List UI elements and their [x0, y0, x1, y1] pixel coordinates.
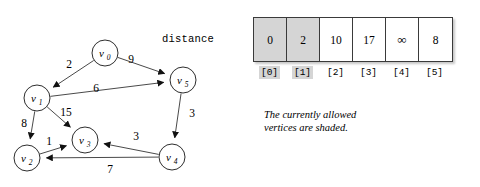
edge-weight-v4-v3: 3 [133, 130, 139, 142]
node-subscript-v5: 5 [185, 80, 189, 89]
graph-node-v5: v5 [170, 67, 196, 93]
edge-v4-to-v3 [104, 144, 159, 155]
graph-node-v2: v2 [14, 145, 40, 171]
edge-weight-v0-v5: 9 [128, 53, 134, 65]
distance-index-label-4: [4] [391, 66, 412, 79]
distance-index-1: [1] [286, 66, 319, 79]
graph-node-v1: v1 [24, 85, 50, 111]
distance-index-5: [5] [418, 66, 451, 79]
edge-v4-to-v2 [46, 157, 158, 158]
distance-cell-1: 2 [287, 18, 320, 61]
distance-index-3: [3] [352, 66, 385, 79]
node-subscript-v2: 2 [29, 158, 33, 167]
edge-v5-to-v4 [175, 93, 181, 137]
node-circle-v4 [159, 144, 185, 170]
edge-v0-to-v5 [118, 57, 165, 73]
graph-node-v3: v3 [72, 127, 98, 153]
node-label-v5: v [177, 74, 182, 86]
edge-weight-v4-v2: 7 [107, 163, 113, 175]
node-subscript-v4: 4 [174, 157, 178, 166]
edge-v1-to-v5 [50, 82, 163, 96]
edge-v1-to-v2 [30, 111, 35, 138]
graph-panel: v0v1v2v3v4v5 2961581373 [0, 0, 232, 187]
node-circle-v3 [72, 127, 98, 153]
distance-index-2: [2] [319, 66, 352, 79]
distance-array-cells: 021017∞8 [253, 17, 453, 62]
distance-cell-4: ∞ [386, 18, 419, 61]
node-subscript-v1: 1 [39, 98, 43, 107]
node-label-v0: v [99, 47, 104, 59]
distance-index-label-5: [5] [424, 66, 445, 79]
distance-index-4: [4] [385, 66, 418, 79]
distance-array-indices: [0][1][2][3][4][5] [253, 66, 451, 79]
graph-node-v4: v4 [159, 144, 185, 170]
edge-v2-to-v3 [40, 146, 66, 154]
edge-weight-v5-v4: 3 [189, 107, 195, 119]
node-label-v4: v [166, 151, 171, 163]
node-circle-v2 [14, 145, 40, 171]
edge-weight-v1-v5: 6 [93, 82, 99, 94]
edge-weight-v0-v1: 2 [66, 58, 72, 70]
distance-cell-0: 0 [254, 18, 287, 61]
node-circle-v1 [24, 85, 50, 111]
caption-line-1: The currently allowed [264, 108, 454, 121]
graph-node-v0: v0 [92, 40, 118, 66]
figure-caption: The currently allowed vertices are shade… [264, 108, 454, 134]
node-label-v1: v [31, 92, 36, 104]
edge-weight-v1-v2: 8 [21, 117, 27, 129]
node-subscript-v3: 3 [86, 140, 91, 149]
nodes-layer: v0v1v2v3v4v5 [14, 40, 196, 171]
edge-weight-v2-v3: 1 [46, 135, 52, 147]
dijkstra-figure: v0v1v2v3v4v5 2961581373 distance 021017∞… [0, 0, 480, 187]
edges-layer [30, 57, 181, 157]
edge-v0-to-v1 [53, 60, 93, 87]
distance-index-label-2: [2] [325, 66, 346, 79]
distance-index-label-0: [0] [259, 66, 280, 79]
node-circle-v5 [170, 67, 196, 93]
distance-array-label: distance [162, 33, 214, 45]
distance-index-label-1: [1] [292, 66, 313, 79]
caption-line-2: vertices are shaded. [264, 121, 454, 134]
edge-weight-v1-v3: 15 [60, 106, 72, 118]
node-label-v3: v [79, 134, 84, 146]
distance-cell-2: 10 [320, 18, 353, 61]
node-subscript-v0: 0 [107, 53, 111, 62]
node-circle-v0 [92, 40, 118, 66]
distance-index-0: [0] [253, 66, 286, 79]
distance-index-label-3: [3] [358, 66, 379, 79]
distance-cell-3: 17 [353, 18, 386, 61]
distance-cell-5: 8 [419, 18, 452, 61]
node-label-v2: v [21, 152, 26, 164]
graph-diagram: v0v1v2v3v4v5 2961581373 [0, 0, 232, 187]
distance-array-panel: distance 021017∞8 [0][1][2][3][4][5] The… [236, 0, 480, 187]
